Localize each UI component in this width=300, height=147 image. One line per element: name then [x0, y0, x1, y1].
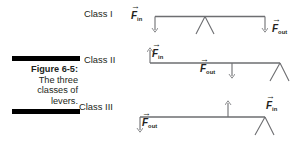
- vector-arrow-icon: →: [266, 94, 275, 99]
- force-subscript: in: [158, 54, 163, 60]
- force-subscript: out: [206, 69, 215, 75]
- vector-arrow-icon: →: [142, 111, 151, 116]
- class-3-output-force-label: →Fout: [142, 116, 157, 128]
- class-1-lever: [155, 17, 265, 35]
- vector-arrow-icon: →: [152, 42, 161, 47]
- class-1-output-force-label: →Fout: [272, 22, 287, 34]
- class-1-input-force-label: →Fin: [131, 9, 142, 21]
- class-2-fulcrum-icon: [270, 63, 289, 81]
- class-3-fulcrum-icon: [255, 117, 274, 135]
- class-2-output-force-label: →Fout: [200, 62, 215, 74]
- force-subscript: out: [148, 123, 157, 129]
- class-3-lever: [140, 103, 274, 135]
- force-subscript: in: [137, 16, 142, 22]
- class-1-fulcrum-icon: [196, 17, 214, 35]
- force-subscript: out: [278, 29, 287, 35]
- vector-arrow-icon: →: [272, 17, 281, 22]
- class-3-input-force-label: →Fin: [266, 99, 277, 111]
- vector-arrow-icon: →: [200, 57, 209, 62]
- class-2-input-force-label: →Fin: [152, 47, 163, 59]
- force-subscript: in: [272, 106, 277, 112]
- vector-arrow-icon: →: [131, 4, 140, 9]
- class-2-lever: [150, 50, 289, 81]
- lever-classes-figure: Figure 6-5: The three classes of levers.…: [0, 0, 300, 147]
